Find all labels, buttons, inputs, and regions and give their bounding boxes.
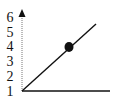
y-tick-6: 6 xyxy=(4,11,16,25)
diagram xyxy=(0,0,114,102)
marked-point xyxy=(65,42,74,52)
y-axis-arrow-icon xyxy=(19,9,26,17)
y-tick-4: 4 xyxy=(4,40,16,54)
y-tick-5: 5 xyxy=(4,26,16,40)
y-tick-2: 2 xyxy=(4,70,16,84)
y-tick-3: 3 xyxy=(4,55,16,69)
y-tick-1: 1 xyxy=(4,85,16,99)
data-line xyxy=(22,24,96,91)
